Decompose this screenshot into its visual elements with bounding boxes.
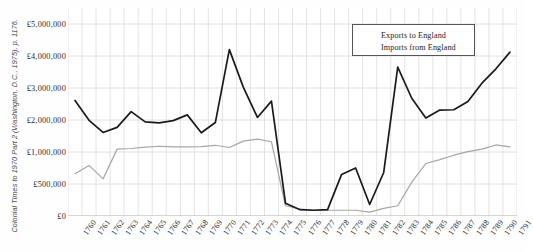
x-tick-label: 1790: [502, 218, 519, 237]
y-tick-label: £500,000: [33, 180, 66, 189]
x-tick-label: 1789: [488, 218, 505, 237]
x-tick-label: 1775: [292, 218, 309, 237]
x-tick-label: 1784: [418, 218, 435, 237]
x-tick-label: 1762: [109, 218, 126, 237]
x-tick-label: 1766: [165, 218, 182, 237]
y-tick-label: £0: [57, 212, 66, 221]
x-tick-label: 1780: [362, 218, 379, 237]
x-tick-label: 1781: [376, 218, 393, 237]
x-tick-label: 1774: [278, 218, 295, 237]
x-tick-label: 1769: [207, 218, 224, 237]
x-tick-label: 1761: [95, 218, 112, 237]
x-tick-label: 1782: [390, 218, 407, 237]
x-tick-label: 1785: [432, 218, 449, 237]
x-axis-labels: 1760176117621763176417651766176717681769…: [68, 216, 517, 252]
y-tick-label: £1,000,000: [27, 148, 66, 157]
x-tick-label: 1779: [348, 218, 365, 237]
x-tick-label: 1760: [81, 218, 98, 237]
legend-item-imports: Imports from England: [359, 41, 468, 53]
x-tick-label: 1788: [474, 218, 491, 237]
y-tick-label: £2,000,000: [27, 116, 66, 125]
legend-label-imports: Imports from England: [381, 43, 456, 52]
x-tick-label: 1776: [306, 218, 323, 237]
x-tick-label: 1786: [446, 218, 463, 237]
y-axis-labels: £0£500,000£1,000,000£2,000,000£3,000,000…: [14, 0, 66, 252]
y-tick-label: £5,000,000: [27, 20, 66, 29]
x-tick-label: 1763: [123, 218, 140, 237]
chart-legend: Exports to England Imports from England: [352, 24, 475, 56]
y-tick-label: £4,000,000: [27, 52, 66, 61]
x-tick-label: 1778: [334, 218, 351, 237]
y-tick-label: £3,000,000: [27, 84, 66, 93]
x-tick-label: 1767: [179, 218, 196, 237]
x-tick-label: 1787: [460, 218, 477, 237]
x-tick-label: 1770: [221, 218, 238, 237]
x-tick-label: 1768: [193, 218, 210, 237]
x-tick-label: 1771: [236, 218, 253, 237]
x-tick-label: 1764: [137, 218, 154, 237]
x-tick-label: 1772: [250, 218, 267, 237]
x-tick-label: 1777: [320, 218, 337, 237]
legend-label-exports: Exports to England: [381, 31, 446, 40]
x-tick-label: 1773: [264, 218, 281, 237]
legend-item-exports: Exports to England: [359, 29, 468, 41]
x-tick-label: 1765: [151, 218, 168, 237]
x-tick-label: 1783: [404, 218, 421, 237]
x-tick-label: 1791: [516, 218, 533, 237]
